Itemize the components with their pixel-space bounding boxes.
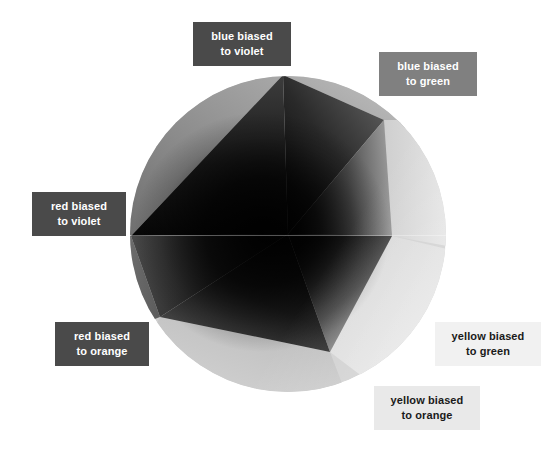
wheel-facets [70,45,472,430]
highlight-wash [130,76,446,392]
callout-blue-biased-to-green: blue biased to green [379,52,477,96]
callout-line-2: to orange [401,408,452,423]
callout-line-2: to green [466,344,510,359]
callout-line-1: blue biased [211,29,273,44]
callout-red-biased-to-violet: red biased to violet [32,192,126,236]
callout-line-1: blue biased [397,59,459,74]
callout-line-2: to orange [76,344,127,359]
callout-line-1: red biased [74,329,130,344]
callout-blue-biased-to-violet: blue biased to violet [193,22,291,66]
callout-red-biased-to-orange: red biased to orange [55,322,149,366]
callout-line-2: to violet [57,214,100,229]
callout-line-2: to violet [220,44,263,59]
callout-line-2: to green [406,74,450,89]
callout-yellow-biased-to-green: yellow biased to green [435,322,541,366]
callout-line-1: yellow biased [391,393,464,408]
callout-yellow-biased-to-orange: yellow biased to orange [374,386,480,430]
callout-line-1: yellow biased [452,329,525,344]
figure-canvas: blue biased to violet blue biased to gre… [0,0,551,457]
callout-line-1: red biased [51,199,107,214]
